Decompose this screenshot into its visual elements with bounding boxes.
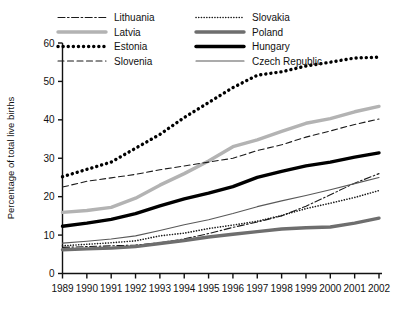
- x-tick-label: 2000: [319, 283, 342, 294]
- x-tick-label: 1994: [173, 283, 196, 294]
- y-tick-label: 50: [43, 76, 55, 87]
- legend-label-slovakia: Slovakia: [252, 12, 290, 23]
- x-tick-label: 1992: [124, 283, 147, 294]
- x-tick-label: 1991: [100, 283, 123, 294]
- chart-root: Percentage of total live births 01020304…: [0, 0, 397, 312]
- x-tick-label: 2001: [344, 283, 367, 294]
- x-tick-label: 1993: [149, 283, 172, 294]
- y-tick-label: 0: [49, 268, 55, 279]
- legend-label-latvia: Latvia: [114, 27, 141, 38]
- x-tick-labels-group: 1989199019911992199319941995199619971998…: [51, 283, 390, 294]
- line-chart: Percentage of total live births 01020304…: [0, 0, 397, 312]
- y-tick-label: 20: [43, 191, 55, 202]
- legend-label-slovenia: Slovenia: [114, 56, 153, 67]
- x-tick-label: 1997: [246, 283, 269, 294]
- x-tick-label: 2002: [368, 283, 391, 294]
- y-axis-title-group: Percentage of total live births: [5, 96, 16, 219]
- x-tick-label: 1999: [295, 283, 318, 294]
- y-axis-title: Percentage of total live births: [5, 96, 16, 219]
- legend-label-lithuania: Lithuania: [114, 12, 155, 23]
- x-tick-label: 1998: [270, 283, 293, 294]
- y-tick-label: 30: [43, 153, 55, 164]
- y-tick-label: 60: [43, 38, 55, 49]
- legend-label-estonia: Estonia: [114, 41, 148, 52]
- x-tick-label: 1995: [197, 283, 220, 294]
- legend-label-poland: Poland: [252, 27, 283, 38]
- x-tick-label: 1989: [51, 283, 74, 294]
- y-tick-label: 40: [43, 114, 55, 125]
- legend-label-hungary: Hungary: [252, 41, 290, 52]
- legend-label-czech-republic: Czech Republic: [252, 56, 322, 67]
- y-tick-label: 10: [43, 230, 55, 241]
- x-tick-label: 1996: [222, 283, 245, 294]
- x-tick-label: 1990: [76, 283, 99, 294]
